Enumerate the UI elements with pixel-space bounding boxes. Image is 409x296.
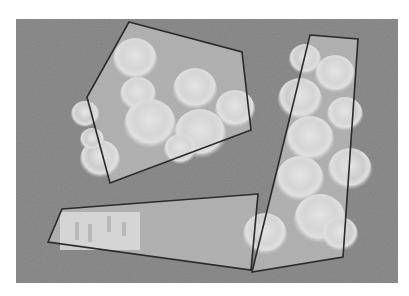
chess-scene [0,0,409,296]
